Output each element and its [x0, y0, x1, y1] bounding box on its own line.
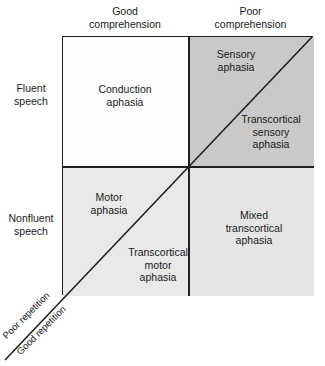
cell-label-transcortical-motor-aphasia: Transcorticalmotoraphasia [118, 246, 198, 284]
cell-label-sensory-aphasia: Sensoryaphasia [196, 48, 276, 73]
cell-label-motor-aphasia: Motoraphasia [73, 191, 145, 216]
column-header-good-comprehension: Goodcomprehension [62, 5, 188, 31]
aphasia-classification-diagram: Goodcomprehension Poorcomprehension Flue… [0, 0, 325, 366]
cell-label-conduction-aphasia: Conductionaphasia [62, 83, 188, 108]
column-header-poor-comprehension: Poorcomprehension [188, 5, 313, 31]
row-header-fluent-speech: Fluentspeech [0, 82, 62, 108]
cell-label-mixed-transcortical-aphasia: Mixedtranscorticalaphasia [205, 209, 303, 247]
cell-label-transcortical-sensory-aphasia: Transcorticalsensoryaphasia [228, 113, 314, 151]
row-header-nonfluent-speech: Nonfluentspeech [0, 212, 62, 238]
horizontal-divider [63, 166, 314, 168]
